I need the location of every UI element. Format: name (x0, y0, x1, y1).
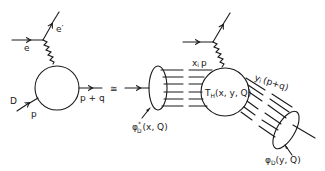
hard-scattering-label: TH(x, y, Q) (204, 88, 251, 99)
constituent-momentum-label: xip (192, 58, 207, 68)
right-diagram: xip TH(x, y, Q) (125, 13, 315, 166)
incoming-momentum-label: p (31, 109, 37, 119)
feynman-diagram: e e′ D p p + q ≅ (0, 0, 325, 171)
initial-wavefunction-ellipse (149, 66, 167, 110)
outgoing-hadron-line-right (293, 125, 315, 138)
constituent-lines-left (161, 70, 183, 106)
initial-wavefunction-label: φ*D(x, Q) (132, 120, 168, 134)
hadron-label: D (10, 96, 17, 106)
photon-line-right (213, 42, 224, 67)
outgoing-electron-line-right (213, 13, 230, 42)
final-wavefunction-label: φD(y, Q) (265, 155, 301, 166)
hadron-blob (35, 66, 79, 110)
approx-equal-symbol: ≅ (110, 84, 118, 94)
electron-label: e (24, 43, 30, 53)
photon-line (43, 40, 54, 64)
scattered-electron-label: e′ (56, 24, 64, 34)
outgoing-momentum-label: p + q (80, 93, 105, 103)
outgoing-constituent-momentum-label: yi(p+q) (253, 72, 289, 92)
left-diagram: e e′ D p p + q (10, 12, 105, 119)
